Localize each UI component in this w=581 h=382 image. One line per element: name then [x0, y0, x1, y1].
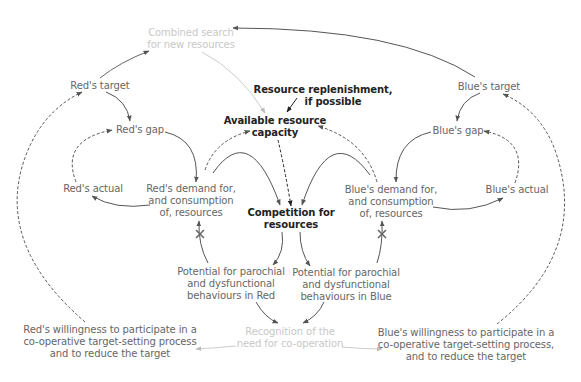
link-blue-demand-to-actual: [433, 198, 503, 210]
link-competition-to-blue-parochial: [300, 232, 310, 266]
node-competition: Competition for resources: [247, 207, 334, 231]
node-blue-target: Blue's target: [458, 81, 520, 93]
causal-loop-diagram: Combined search for new resources Red's …: [0, 0, 581, 382]
node-red-parochial: Potential for parochial and dysfunctiona…: [177, 266, 285, 302]
link-blue-demand-to-capacity: [318, 126, 377, 182]
link-red-gap-to-demand: [165, 132, 196, 182]
link-recognition-to-blue-willingness: [342, 347, 382, 349]
link-red-willingness-to-target: [17, 92, 85, 322]
link-blue-target-to-gap: [457, 93, 480, 121]
link-red-actual-to-gap: [72, 130, 112, 182]
node-red-willingness: Red's willingness to participate in a co…: [23, 324, 196, 360]
link-red-parochial-to-recognition: [256, 302, 278, 323]
node-blue-willingness: Blue's willingness to participate in a c…: [378, 327, 554, 363]
link-red-demand-to-actual: [92, 196, 150, 206]
link-blue-willingness-to-target: [497, 94, 565, 324]
link-blue-parochial-to-recognition: [303, 302, 324, 323]
node-recognition: Recognition of the need for co-operation: [237, 326, 344, 350]
node-blue-demand: Blue's demand for, and consumption of, r…: [345, 184, 438, 220]
link-blue-parochial-to-demand: [377, 221, 382, 263]
link-red-target-to-gap: [106, 92, 130, 121]
node-combined-search: Combined search for new resources: [147, 27, 235, 51]
link-recognition-to-red-willingness: [196, 346, 236, 349]
link-red-parochial-to-demand: [199, 221, 208, 263]
node-red-actual: Red's actual: [63, 183, 123, 195]
link-blue-actual-to-gap: [484, 131, 519, 183]
node-blue-gap: Blue's gap: [432, 125, 483, 137]
node-red-demand: Red's demand for, and consumption of, re…: [146, 183, 236, 219]
link-competition-to-red-parochial: [273, 232, 283, 265]
node-resource-replenishment: Resource replenishment, if possible: [254, 84, 393, 108]
node-blue-actual: Blue's actual: [486, 184, 549, 196]
node-red-gap: Red's gap: [116, 124, 164, 136]
link-capacity-to-competition: [278, 140, 291, 206]
node-blue-parochial: Potential for parochial and dysfunctiona…: [292, 267, 400, 303]
node-available-capacity: Available resource capacity: [224, 115, 327, 139]
link-blue-target-to-search: [233, 28, 475, 77]
node-red-target: Red's target: [70, 80, 129, 92]
link-blue-gap-to-demand: [396, 132, 431, 182]
link-red-target-to-search: [100, 51, 149, 78]
